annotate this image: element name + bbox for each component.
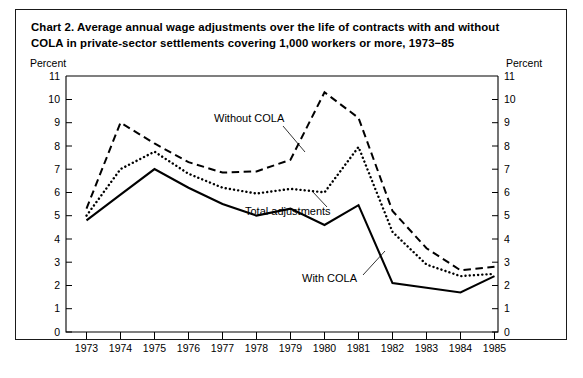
y-tick-right-7: 7 — [492, 163, 510, 175]
y-tick-right-10: 10 — [492, 93, 516, 105]
y-ticklabel-4: 4 — [54, 233, 60, 245]
y-tick-right-8: 8 — [492, 140, 510, 152]
y-ticklabel-8: 8 — [54, 140, 60, 152]
x-tick-1985: 1985 — [483, 332, 507, 354]
series-without-cola — [87, 92, 495, 270]
x-tick-1975: 1975 — [143, 332, 167, 354]
x-ticklabel-1975: 1975 — [143, 342, 167, 354]
x-tick-1983: 1983 — [415, 332, 439, 354]
x-ticklabel-1978: 1978 — [245, 342, 269, 354]
y-ticklabel-right-2: 2 — [504, 279, 510, 291]
y-ticklabel-right-5: 5 — [504, 209, 510, 221]
y-axis-left: 0 1 2 3 4 5 6 7 8 9 10 11 — [48, 70, 72, 338]
series-with-cola — [87, 169, 495, 292]
y-ticklabel-right-1: 1 — [504, 302, 510, 314]
y-tick-right-5: 5 — [492, 209, 510, 221]
y-ticklabel-right-9: 9 — [504, 116, 510, 128]
y-tick-right-1: 1 — [492, 302, 510, 314]
x-ticklabel-1974: 1974 — [109, 342, 133, 354]
plot-area: 0 1 2 3 4 5 6 7 8 9 10 11 0 1 2 3 4 5 6 … — [0, 0, 583, 378]
y-tick-8: 8 — [54, 140, 72, 152]
y-ticklabel-5: 5 — [54, 209, 60, 221]
y-tick-right-4: 4 — [492, 233, 510, 245]
y-tick-11: 11 — [49, 70, 60, 82]
y-ticklabel-3: 3 — [54, 256, 60, 268]
y-tick-right-9: 9 — [492, 116, 510, 128]
annotation-label-without-cola: Without COLA — [214, 112, 285, 124]
x-axis: 1973 1974 1975 1976 1977 1978 1979 1980 … — [75, 332, 507, 354]
x-tick-1976: 1976 — [177, 332, 201, 354]
y-ticklabel-right-11: 11 — [504, 70, 515, 82]
y-ticklabel-right-10: 10 — [504, 93, 516, 105]
x-tick-1982: 1982 — [381, 332, 405, 354]
x-ticklabel-1976: 1976 — [177, 342, 201, 354]
annotation-label-with-cola: With COLA — [302, 272, 358, 284]
y-tick-6: 6 — [54, 186, 72, 198]
x-ticklabel-1983: 1983 — [415, 342, 439, 354]
x-ticklabel-1982: 1982 — [381, 342, 405, 354]
x-tick-1977: 1977 — [211, 332, 235, 354]
y-tick-right-6: 6 — [492, 186, 510, 198]
y-ticklabel-7: 7 — [54, 163, 60, 175]
y-ticklabel-right-0: 0 — [504, 326, 510, 338]
x-ticklabel-1985: 1985 — [483, 342, 507, 354]
y-tick-5: 5 — [54, 209, 72, 221]
x-ticklabel-1981: 1981 — [347, 342, 371, 354]
chart-figure: Chart 2. Average annual wage adjustments… — [0, 0, 583, 378]
y-ticklabel-right-6: 6 — [504, 186, 510, 198]
x-tick-1979: 1979 — [279, 332, 303, 354]
x-ticklabel-1979: 1979 — [279, 342, 303, 354]
y-tick-10: 10 — [48, 93, 72, 105]
y-tick-right-2: 2 — [492, 279, 510, 291]
y-ticklabel-0: 0 — [54, 326, 60, 338]
x-tick-1981: 1981 — [347, 332, 371, 354]
y-ticklabel-10: 10 — [48, 93, 60, 105]
y-tick-1: 1 — [54, 302, 72, 314]
x-ticklabel-1973: 1973 — [75, 342, 99, 354]
x-tick-1974: 1974 — [109, 332, 133, 354]
x-tick-1978: 1978 — [245, 332, 269, 354]
y-tick-2: 2 — [54, 279, 72, 291]
x-ticklabel-1977: 1977 — [211, 342, 235, 354]
y-ticklabel-right-8: 8 — [504, 140, 510, 152]
y-ticklabel-1: 1 — [54, 302, 60, 314]
x-ticklabel-1984: 1984 — [449, 342, 473, 354]
x-tick-1984: 1984 — [449, 332, 473, 354]
y-ticklabel-right-3: 3 — [504, 256, 510, 268]
annotation-without-cola: Without COLA — [214, 112, 305, 152]
x-tick-1980: 1980 — [313, 332, 337, 354]
y-axis-right: 0 1 2 3 4 5 6 7 8 9 10 11 — [492, 70, 516, 338]
x-ticklabel-1980: 1980 — [313, 342, 337, 354]
y-tick-3: 3 — [54, 256, 72, 268]
y-tick-0: 0 — [54, 326, 72, 338]
y-tick-4: 4 — [54, 233, 72, 245]
y-tick-7: 7 — [54, 163, 72, 175]
annotation-label-total-adjustments: Total adjustments — [245, 205, 331, 217]
y-ticklabel-right-7: 7 — [504, 163, 510, 175]
annotation-total-adjustments: Total adjustments — [245, 191, 331, 217]
y-ticklabel-right-4: 4 — [504, 233, 510, 245]
x-tick-1973: 1973 — [75, 332, 99, 354]
y-ticklabel-9: 9 — [54, 116, 60, 128]
y-tick-9: 9 — [54, 116, 72, 128]
y-ticklabel-6: 6 — [54, 186, 60, 198]
y-tick-right-3: 3 — [492, 256, 510, 268]
y-tick-right-11: 11 — [504, 70, 515, 82]
y-ticklabel-11: 11 — [49, 70, 60, 82]
y-ticklabel-2: 2 — [54, 279, 60, 291]
annotation-with-cola: With COLA — [302, 251, 385, 284]
